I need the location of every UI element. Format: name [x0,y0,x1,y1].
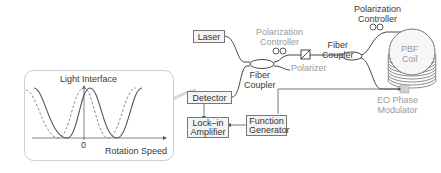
eo-phase-modulator-label: EO Phase Modulator [377,95,418,115]
detector-box: Detector [187,91,232,104]
lock-in-amplifier-box: Lock–in Amplifier [187,117,229,138]
laser-box: Laser [193,30,225,43]
diagram-canvas [0,0,441,173]
lock-in-line-2: Amplifier [190,128,226,137]
inset-y-label: Light Interface [60,74,117,84]
pc1-loop-1 [273,48,279,54]
fiber-coupler-1-shape [250,60,274,69]
inset-x-label: Rotation Speed [105,146,167,156]
polarization-controller-2-label: Polarization Controller [354,4,401,24]
polarization-controller-1-label: Polarization Controller [256,27,303,47]
function-generator-line-2: Generator [249,126,284,135]
fiber-coupler1-dead-end [274,66,290,70]
polarizer-label: Polarizer [291,63,327,73]
pc1-loop-2 [280,48,286,54]
pc2-loop-1 [370,24,376,30]
pc2-loop-2 [377,24,383,30]
fiber-coupler-2-label: Fiber Coupler [322,40,354,60]
fiber-coupler-1-label: Fiber Coupler [244,70,276,90]
function-generator-box: Function Generator [246,115,287,136]
fiber-laser-coupler [224,36,250,62]
pbf-coil-label: PBF Coil [401,44,419,64]
eo-phase-modulator-icon [400,85,409,93]
inset-origin-label: 0 [81,140,86,150]
